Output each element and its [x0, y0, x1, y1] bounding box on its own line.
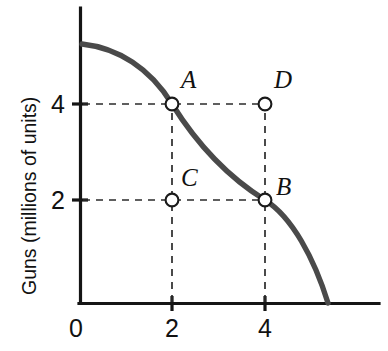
point-label-d: D	[273, 66, 292, 93]
axes-group	[79, 8, 379, 304]
tick-marks-group	[72, 104, 265, 311]
x-tick-label-2: 2	[165, 314, 179, 342]
y-tick-label-2: 2	[51, 186, 65, 214]
point-marker-d[interactable]	[259, 98, 272, 111]
chart-canvas: A D C B 4 2 0 2 4 Guns (millions of unit…	[0, 0, 388, 351]
x-tick-label-4: 4	[258, 314, 272, 342]
ppf-chart: A D C B 4 2 0 2 4 Guns (millions of unit…	[0, 0, 388, 351]
x-tick-label-0: 0	[69, 314, 83, 342]
point-label-a: A	[179, 66, 197, 93]
point-label-b: B	[276, 173, 291, 200]
point-marker-c[interactable]	[166, 194, 179, 207]
point-marker-a[interactable]	[166, 98, 179, 111]
point-marker-b[interactable]	[259, 194, 272, 207]
y-axis-title: Guns (millions of units)	[18, 97, 40, 295]
point-label-c: C	[181, 164, 198, 191]
y-tick-label-4: 4	[51, 90, 65, 118]
